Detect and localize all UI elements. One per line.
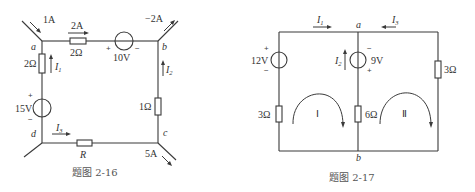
voltage-source-12v <box>271 52 287 68</box>
node-a: a <box>31 41 36 52</box>
resistor-top-2ohm <box>70 38 86 44</box>
minus-sign-9v: − <box>367 44 372 53</box>
minus-sign-10v: − <box>135 44 140 53</box>
figure-2-17: I1 I3 I2 a b 12V + − 9V − + 3Ω 6Ω 3Ω Ⅰ Ⅱ… <box>251 14 456 183</box>
voltage-source-15v <box>33 99 51 117</box>
label-neg2a: −2A <box>145 13 164 24</box>
branch-c <box>158 143 176 160</box>
caption-2-17: 题图 2-17 <box>329 172 375 183</box>
node-b: b <box>356 152 361 163</box>
label-i3: I3 <box>55 122 63 134</box>
label-5a: 5A <box>145 148 158 159</box>
loop-label-1: Ⅰ <box>316 108 319 119</box>
resistor-right-1ohm <box>155 98 161 115</box>
label-1a: 1A <box>43 14 56 25</box>
node-a: a <box>356 19 361 30</box>
circuit-figures: 1A 2A 2Ω −2A 10V + − a b c d 2Ω 1Ω 15V +… <box>0 0 475 192</box>
label-2a: 2A <box>71 20 84 31</box>
current-arrow-i2 <box>161 60 165 76</box>
node-c: c <box>163 127 168 138</box>
label-r-left: 2Ω <box>24 58 36 69</box>
caption-2-16: 题图 2-16 <box>72 167 118 178</box>
loop-label-2: Ⅱ <box>402 108 407 119</box>
plus-sign-12v: + <box>264 44 269 53</box>
node-d: d <box>31 128 37 139</box>
resistor-right-3ohm <box>435 61 441 78</box>
resistor-left-3ohm <box>276 106 282 122</box>
current-arrow-2a <box>68 31 89 35</box>
voltage-source-9v <box>350 52 366 68</box>
label-12v: 12V <box>251 55 269 66</box>
label-i2: I2 <box>334 55 342 67</box>
node-b: b <box>162 41 167 52</box>
resistor-bottom-r <box>77 140 92 146</box>
label-r-bottom: R <box>79 149 86 160</box>
minus-sign-12v: − <box>264 66 269 75</box>
label-i1: I1 <box>316 14 324 26</box>
label-15v: 15V <box>15 103 33 114</box>
plus-sign-9v: + <box>367 66 372 75</box>
current-arrow-i1 <box>49 54 53 73</box>
label-i2: I2 <box>165 64 173 76</box>
label-9v: 9V <box>371 55 384 66</box>
plus-sign-10v: + <box>106 44 111 53</box>
figure-2-16: 1A 2A 2Ω −2A 10V + − a b c d 2Ω 1Ω 15V +… <box>15 13 178 178</box>
label-i3: I3 <box>391 14 399 26</box>
label-r-top: 2Ω <box>70 47 82 58</box>
minus-sign-15v: − <box>28 115 33 124</box>
resistor-mid-6ohm <box>355 106 361 122</box>
voltage-source-10v <box>115 32 133 50</box>
label-r-mid: 6Ω <box>365 109 377 120</box>
current-arrow-i3 <box>381 25 396 29</box>
resistor-left-2ohm <box>39 54 45 73</box>
plus-sign-15v: + <box>28 91 33 100</box>
current-arrow-i2 <box>343 49 347 70</box>
current-arrow-5a <box>162 156 172 166</box>
label-r-left: 3Ω <box>258 109 270 120</box>
label-r-right: 1Ω <box>139 101 151 112</box>
label-r-right: 3Ω <box>444 64 456 75</box>
label-i1: I1 <box>54 61 62 73</box>
label-10v: 10V <box>113 52 131 63</box>
branch-d <box>24 143 42 157</box>
branch-b <box>158 21 178 41</box>
